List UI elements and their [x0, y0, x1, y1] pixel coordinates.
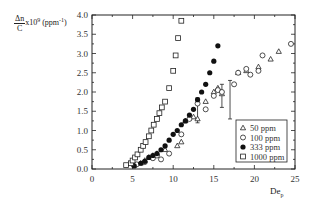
- data-point: [159, 157, 164, 162]
- data-point: [162, 143, 167, 148]
- data-point: [195, 97, 200, 102]
- data-point: [276, 49, 281, 54]
- legend-label: 100 ppm: [250, 133, 280, 143]
- data-point: [124, 163, 129, 168]
- legend-marker: [241, 135, 246, 140]
- data-point: [179, 18, 184, 23]
- data-point: [175, 128, 180, 133]
- data-point: [135, 152, 140, 157]
- data-point: [203, 82, 208, 87]
- data-point: [173, 53, 178, 58]
- data-point: [268, 56, 273, 61]
- data-point: [207, 70, 212, 75]
- y-tick-label: 3.5: [77, 29, 89, 39]
- data-point: [244, 66, 249, 71]
- data-point: [146, 134, 151, 139]
- y-tick-label: 1.0: [77, 126, 89, 136]
- data-point: [151, 122, 156, 127]
- data-point: [248, 72, 253, 77]
- x-tick-label: 5: [130, 174, 135, 184]
- x-tick-label: 10: [169, 174, 179, 184]
- data-point: [203, 99, 208, 104]
- data-point: [211, 59, 216, 64]
- scatter-plot: 05101520250.00.51.01.52.02.53.03.54.050 …: [0, 0, 313, 211]
- data-point: [203, 107, 208, 112]
- data-point: [260, 53, 265, 58]
- y-tick-label: 0.5: [77, 145, 89, 155]
- data-point: [157, 111, 162, 116]
- y-tick-label: 2.5: [77, 68, 89, 78]
- data-point: [143, 140, 148, 145]
- data-point: [191, 107, 196, 112]
- data-point: [149, 128, 154, 133]
- legend-label: 333 ppm: [250, 142, 280, 152]
- data-point: [179, 132, 184, 137]
- data-point: [159, 105, 164, 110]
- data-point: [256, 68, 261, 73]
- y-tick-label: 4.0: [77, 10, 89, 20]
- data-point: [215, 43, 220, 48]
- data-point: [236, 70, 241, 75]
- x-tick-label: 15: [209, 174, 219, 184]
- x-tick-label: 20: [250, 174, 260, 184]
- data-point: [183, 118, 188, 123]
- data-point: [176, 36, 181, 41]
- legend-label: 50 ppm: [250, 123, 276, 133]
- x-tick-label: 25: [291, 174, 301, 184]
- data-point: [171, 68, 176, 73]
- data-point: [171, 132, 176, 137]
- data-point: [167, 151, 172, 156]
- y-tick-label: 3.0: [77, 49, 89, 59]
- data-point: [158, 147, 163, 152]
- data-point: [154, 151, 159, 156]
- data-point: [187, 113, 192, 118]
- data-point: [199, 89, 204, 94]
- data-point: [211, 93, 216, 98]
- x-tick-label: 0: [90, 174, 95, 184]
- data-point: [179, 139, 184, 144]
- data-point: [155, 117, 160, 122]
- data-point: [288, 41, 293, 46]
- data-point: [163, 99, 168, 104]
- data-point: [219, 90, 224, 95]
- data-point: [232, 82, 237, 87]
- data-point: [142, 159, 147, 164]
- y-tick-label: 0.0: [77, 164, 89, 174]
- data-point: [167, 86, 172, 91]
- y-tick-label: 2.0: [77, 87, 89, 97]
- legend-marker: [240, 144, 245, 149]
- legend-label: 1000 ppm: [250, 152, 285, 162]
- data-point: [179, 122, 184, 127]
- legend-marker: [241, 154, 246, 159]
- data-point: [167, 138, 172, 143]
- y-tick-label: 1.5: [77, 106, 89, 116]
